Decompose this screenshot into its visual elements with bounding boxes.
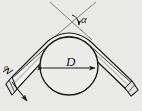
edge-mark-label: a	[4, 64, 8, 72]
angle-arc	[72, 15, 79, 25]
diameter-label: D	[66, 55, 75, 68]
angle-label: α	[81, 14, 87, 25]
figure-canvas: D α a	[0, 0, 142, 111]
